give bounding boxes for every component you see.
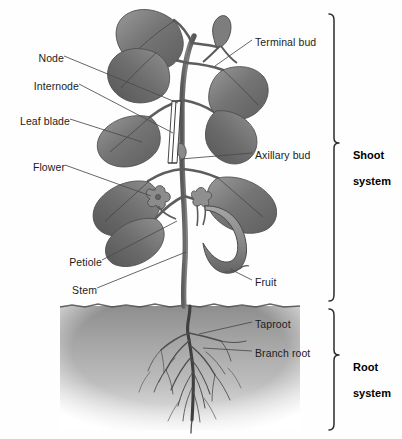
- root-system-line2: system: [353, 387, 391, 399]
- label-fruit: Fruit: [255, 276, 277, 288]
- label-terminal-bud: Terminal bud: [255, 36, 316, 48]
- shoot-system-line2: system: [353, 175, 391, 187]
- shoot-system-line1: Shoot: [353, 149, 384, 161]
- figure-canvas: Node Internode Leaf blade Flower Petiole…: [0, 0, 402, 439]
- label-stem: Stem: [30, 284, 97, 296]
- system-brackets: [0, 0, 402, 439]
- label-branch-root: Branch root: [255, 347, 310, 359]
- label-node: Node: [0, 52, 64, 64]
- label-leaf-blade: Leaf blade: [0, 115, 70, 127]
- root-bracket: [329, 309, 339, 430]
- root-system-label: Root system: [353, 348, 391, 400]
- label-axillary-bud: Axillary bud: [255, 149, 310, 161]
- shoot-system-label: Shoot system: [353, 136, 391, 188]
- label-flower: Flower: [0, 161, 65, 173]
- label-petiole: Petiole: [30, 256, 102, 268]
- label-taproot: Taproot: [255, 318, 291, 330]
- root-system-line1: Root: [353, 361, 378, 373]
- label-internode: Internode: [0, 80, 79, 92]
- shoot-bracket: [329, 14, 339, 301]
